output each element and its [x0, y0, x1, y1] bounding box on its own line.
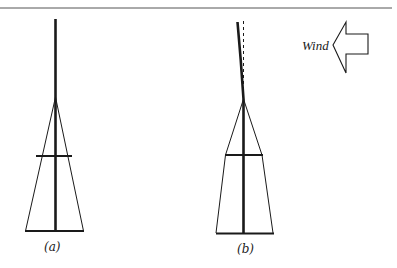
- left-arrow-icon: [333, 22, 368, 73]
- panel-a-mast: [25, 19, 84, 232]
- guy-right-b: [244, 99, 274, 233]
- guy-left-b: [216, 99, 244, 233]
- wind-label: Wind: [302, 39, 329, 52]
- deflected-mast-b: [238, 22, 244, 99]
- guy-left-a: [26, 97, 56, 231]
- mast-diagram: [0, 0, 397, 268]
- guy-right-a: [56, 97, 84, 231]
- panel-b-label: (b): [237, 243, 254, 255]
- panel-b-mast: [216, 21, 274, 234]
- panel-a-label: (a): [44, 241, 61, 253]
